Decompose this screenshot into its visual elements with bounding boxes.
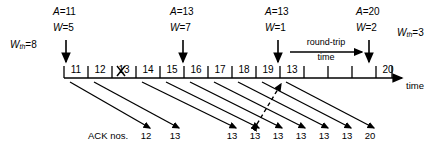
event-3-window-value: =1 bbox=[274, 22, 285, 33]
ack-number-1: 13 bbox=[165, 131, 185, 141]
seq-slot-13: 20 bbox=[377, 65, 399, 75]
wth-final-value: =3 bbox=[412, 27, 423, 38]
ack-number-4: 13 bbox=[268, 131, 288, 141]
event-2-ack-label: A=13 bbox=[170, 7, 194, 17]
ack-number-3: 13 bbox=[245, 131, 265, 141]
ack-number-5: 13 bbox=[291, 131, 311, 141]
seq-slot-5: 16 bbox=[185, 65, 207, 75]
event-4-ack-symbol: A bbox=[356, 6, 363, 17]
ack-number-0: 12 bbox=[136, 131, 156, 141]
event-3-ack-value: =13 bbox=[272, 6, 289, 17]
tcp-timing-diagram: Wth=8 A=11 W=5 A=13 W=7 A=13 W=1 A=20 W=… bbox=[0, 0, 438, 152]
event-1-ack-label: A=11 bbox=[53, 7, 76, 17]
ack-number-2: 13 bbox=[222, 131, 242, 141]
event-4-window-label: W=2 bbox=[356, 23, 377, 33]
seq-slot-0: 11 bbox=[65, 65, 87, 75]
ack-arrows bbox=[70, 82, 374, 128]
event-4-window-value: =2 bbox=[365, 22, 376, 33]
round-trip-time-label-line1: round-trip bbox=[295, 38, 357, 47]
seq-slot-1: 12 bbox=[89, 65, 111, 75]
round-trip-time-label-line2: time bbox=[295, 53, 357, 62]
event-2-window-value: =7 bbox=[179, 22, 190, 33]
event-1-window-label: W=5 bbox=[53, 23, 74, 33]
event-4-ack-label: A=20 bbox=[356, 7, 380, 17]
event-1-ack-symbol: A bbox=[53, 6, 60, 17]
seq-slot-7: 18 bbox=[233, 65, 255, 75]
ack-number-6: 13 bbox=[314, 131, 334, 141]
seq-slot-6: 17 bbox=[209, 65, 231, 75]
seq-slot-3: 14 bbox=[137, 65, 159, 75]
event-3-ack-symbol: A bbox=[265, 6, 272, 17]
event-3-ack-label: A=13 bbox=[265, 7, 289, 17]
event-1-ack-value: =11 bbox=[60, 6, 76, 17]
seq-slot-2: 13 bbox=[113, 65, 135, 75]
ack-row-label: ACK nos. bbox=[88, 131, 128, 141]
seq-slot-8: 19 bbox=[257, 65, 279, 75]
seq-slot-4: 15 bbox=[161, 65, 183, 75]
event-2-window-label: W=7 bbox=[170, 23, 191, 33]
event-1-window-value: =5 bbox=[62, 22, 73, 33]
event-3-window-label: W=1 bbox=[265, 23, 286, 33]
event-4-ack-value: =20 bbox=[363, 6, 380, 17]
wth-initial-value: =8 bbox=[25, 39, 36, 50]
ack-number-7: 13 bbox=[337, 131, 357, 141]
time-axis-label: time bbox=[406, 81, 424, 91]
event-2-ack-symbol: A bbox=[170, 6, 177, 17]
event-2-ack-value: =13 bbox=[177, 6, 194, 17]
wth-final-label: Wth=3 bbox=[397, 28, 424, 38]
wth-initial-label: Wth=8 bbox=[10, 40, 37, 50]
seq-slot-9: 13 bbox=[281, 65, 303, 75]
ack-number-8: 20 bbox=[360, 131, 380, 141]
